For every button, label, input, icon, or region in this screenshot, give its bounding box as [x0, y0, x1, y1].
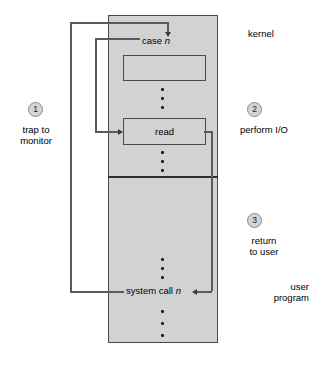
ellipsis-dot: [161, 310, 164, 313]
step-2-number: 2: [252, 104, 257, 114]
ellipsis-dot: [161, 151, 164, 154]
trap-path-top-segment: [70, 22, 168, 24]
return-path-arrowhead: [192, 289, 197, 295]
step-1-caption: trap to monitor: [0, 124, 72, 146]
case-word: case: [142, 35, 162, 46]
user-program-label-line2: program: [219, 292, 309, 303]
ellipsis-dot: [161, 88, 164, 91]
step-3-caption-line1: return: [219, 235, 309, 246]
return-path-vertical-segment: [211, 131, 213, 291]
return-path-bottom-segment: [197, 291, 212, 293]
step-1-caption-line2: monitor: [0, 135, 72, 146]
ellipsis-dot: [161, 169, 164, 172]
user-program-label-line1: user: [219, 281, 309, 292]
trap-path-vertical-segment: [70, 22, 72, 292]
read-routine-label: read: [155, 126, 174, 137]
step-1-caption-line1: trap to: [0, 124, 72, 135]
dispatch-path-arrowhead: [118, 129, 123, 135]
trap-path-bottom-segment: [70, 291, 124, 293]
step-2-caption: perform I/O: [219, 124, 309, 135]
step-1-number: 1: [33, 104, 38, 114]
empty-routine-box: [123, 55, 206, 81]
ellipsis-dot: [161, 334, 164, 337]
system-call-variable: n: [176, 285, 181, 296]
ellipsis-dot: [161, 258, 164, 261]
step-2-caption-line1: perform I/O: [219, 124, 309, 135]
dispatch-path-top-segment: [95, 38, 140, 40]
step-1-badge: 1: [28, 102, 43, 117]
step-3-caption: return to user: [219, 235, 309, 257]
kernel-region-label: kernel: [248, 28, 274, 39]
system-call-diagram: read case n system call n 1: [0, 0, 318, 368]
user-program-region-label: user program: [219, 281, 309, 303]
kernel-user-divider: [108, 176, 218, 178]
step-3-number: 3: [252, 215, 257, 225]
ellipsis-dot: [161, 97, 164, 100]
ellipsis-dot: [161, 160, 164, 163]
ellipsis-dot: [161, 267, 164, 270]
ellipsis-dot: [161, 106, 164, 109]
read-routine-box: read: [123, 118, 206, 145]
step-2-badge: 2: [247, 102, 262, 117]
system-call-label: system call n: [126, 285, 181, 296]
ellipsis-dot: [161, 322, 164, 325]
dispatch-path-bottom-segment: [95, 131, 119, 133]
ellipsis-dot: [161, 276, 164, 279]
trap-path-arrowhead: [165, 32, 171, 37]
system-call-word: system call: [126, 285, 173, 296]
step-3-caption-line2: to user: [219, 246, 309, 257]
step-3-badge: 3: [247, 213, 262, 228]
dispatch-path-vertical-segment: [95, 38, 97, 131]
